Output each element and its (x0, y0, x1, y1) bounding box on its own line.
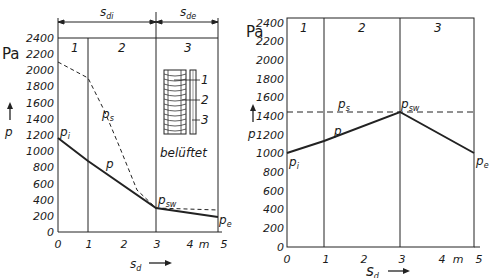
left-y-unit: Pa (2, 45, 20, 63)
svg-text:600: 600 (33, 178, 54, 191)
right-zone-2-label: 2 (358, 21, 366, 35)
left-label-pi: pi (59, 125, 71, 141)
right-label-pi: pi (288, 155, 300, 171)
svg-text:200: 200 (33, 210, 54, 223)
inset-label-1: 1 (201, 73, 209, 87)
right-zone-3-label: 3 (434, 21, 442, 35)
right-chart: 1 2 3 0 200 400 600 800 1000 1200 1400 1… (246, 17, 489, 278)
svg-text:0: 0 (55, 238, 62, 251)
right-y-unit: Pa (246, 23, 264, 41)
left-y-axis-ticks: 0 200 400 600 800 1000 1200 1400 1600 18… (26, 32, 54, 239)
svg-text:400: 400 (263, 203, 284, 216)
left-y-arrow-icon (7, 102, 13, 120)
right-x-arrow-icon (388, 268, 410, 274)
svg-text:1600: 1600 (26, 97, 54, 110)
right-x-symbol: sd (366, 262, 380, 278)
left-label-ps: ps (101, 107, 114, 123)
svg-text:600: 600 (263, 185, 284, 198)
svg-text:1400: 1400 (26, 113, 54, 126)
svg-text:3: 3 (399, 253, 406, 266)
svg-text:1800: 1800 (26, 80, 54, 93)
right-x-axis-ticks: 0 1 2 3 4 m 5 (284, 253, 483, 266)
right-p-curve (287, 112, 474, 153)
right-zone-1-label: 1 (300, 21, 308, 35)
zone-3-label: 3 (184, 41, 192, 55)
svg-text:0: 0 (47, 226, 54, 239)
svg-text:5: 5 (221, 238, 228, 251)
right-label-ps: ps (337, 97, 350, 113)
svg-text:4: 4 (439, 253, 446, 266)
dim-sde-label: sde (180, 5, 196, 21)
svg-text:1000: 1000 (256, 147, 284, 160)
left-label-pe: pe (218, 213, 232, 229)
left-y-symbol: p (4, 125, 13, 139)
svg-text:1200: 1200 (26, 129, 54, 142)
svg-text:1800: 1800 (256, 73, 284, 86)
svg-text:m: m (453, 253, 464, 266)
svg-text:1000: 1000 (26, 145, 54, 158)
left-x-axis-ticks: 0 1 2 3 4 m 5 (55, 238, 228, 251)
right-frame (287, 18, 480, 247)
left-frame (58, 38, 222, 232)
left-x-symbol: sd (130, 257, 142, 273)
left-label-psw: psw (157, 193, 177, 209)
svg-text:2400: 2400 (26, 32, 54, 45)
dim-sdi-label: sdi (100, 5, 114, 21)
svg-text:400: 400 (33, 194, 54, 207)
zone-1-label: 1 (71, 41, 79, 55)
right-y-axis-ticks: 0 200 400 600 800 1000 1200 1400 1600 18… (256, 17, 284, 254)
zone-2-label: 2 (118, 41, 126, 55)
right-y-symbol: p (247, 127, 256, 141)
svg-text:1200: 1200 (256, 129, 284, 142)
svg-text:3: 3 (154, 238, 161, 251)
svg-text:1: 1 (323, 253, 330, 266)
svg-text:2200: 2200 (26, 48, 54, 61)
svg-text:4: 4 (187, 238, 194, 251)
left-label-p: p (105, 157, 114, 171)
left-x-arrow-icon (149, 260, 172, 266)
svg-text:1400: 1400 (256, 110, 284, 123)
svg-text:2000: 2000 (26, 64, 54, 77)
svg-text:0: 0 (284, 253, 291, 266)
svg-text:1600: 1600 (256, 91, 284, 104)
right-label-psw: psw (400, 97, 420, 113)
svg-text:1: 1 (86, 238, 93, 251)
svg-text:2: 2 (121, 238, 128, 251)
svg-text:800: 800 (33, 161, 54, 174)
inset-label-2: 2 (201, 93, 209, 107)
svg-text:200: 200 (263, 222, 284, 235)
diagram-canvas: sdi sde 1 2 3 0 200 400 600 800 1000 120… (0, 0, 489, 278)
inset-label-3: 3 (201, 113, 209, 127)
right-label-pe: pe (475, 154, 489, 170)
inset-caption: belüftet (160, 146, 208, 160)
svg-text:2000: 2000 (256, 54, 284, 67)
wall-section-inset: 1 2 3 belüftet (160, 70, 209, 160)
svg-text:800: 800 (263, 166, 284, 179)
svg-text:5: 5 (476, 253, 483, 266)
left-chart: sdi sde 1 2 3 0 200 400 600 800 1000 120… (2, 5, 232, 273)
svg-text:m: m (199, 238, 210, 251)
right-label-p: p (333, 124, 342, 138)
